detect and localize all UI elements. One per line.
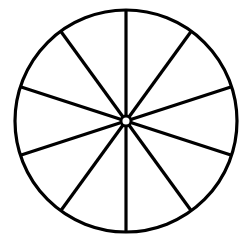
divided-circle-diagram — [0, 0, 246, 242]
center-hub — [121, 116, 131, 126]
wheel-figure — [0, 0, 246, 242]
